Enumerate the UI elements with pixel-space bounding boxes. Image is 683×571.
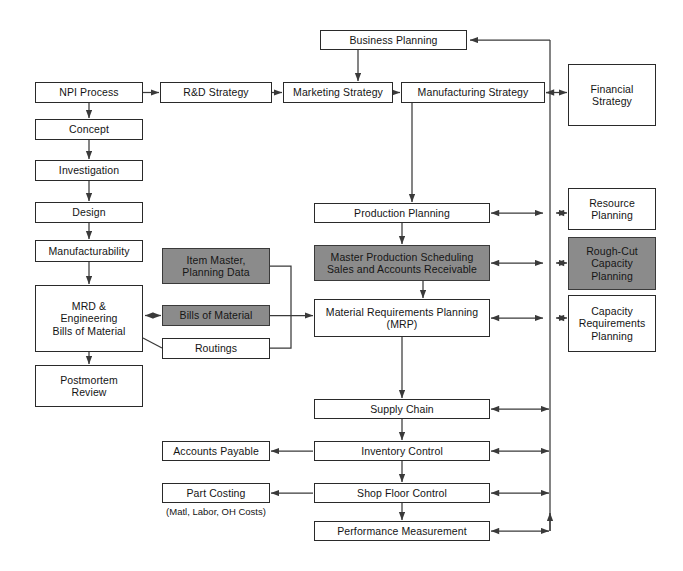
node-label: Supply Chain — [317, 403, 487, 416]
node-manufacturability[interactable]: Manufacturability — [35, 240, 143, 262]
node-label: NPI Process — [38, 86, 140, 99]
node-resource-planning[interactable]: Resource Planning — [568, 188, 656, 230]
node-label: Bills of Material — [165, 309, 267, 322]
node-business-planning[interactable]: Business Planning — [320, 30, 467, 50]
node-inventory-control[interactable]: Inventory Control — [314, 441, 490, 461]
node-label: Financial Strategy — [571, 83, 653, 108]
node-concept[interactable]: Concept — [35, 119, 143, 140]
node-label: Manufacturability — [38, 245, 140, 258]
node-label: Routings — [165, 342, 267, 355]
part-costing-note: (Matl, Labor, OH Costs) — [162, 506, 270, 517]
node-supply-chain[interactable]: Supply Chain — [314, 399, 490, 419]
connector-item-master-merge — [270, 266, 291, 316]
node-marketing-strategy[interactable]: Marketing Strategy — [283, 82, 393, 103]
node-rough-cut-capacity-planning[interactable]: Rough-Cut Capacity Planning — [568, 237, 656, 290]
node-label: Inventory Control — [317, 445, 487, 458]
node-bills-of-material[interactable]: Bills of Material — [162, 305, 270, 326]
node-mrd-engineering-bills-of-material[interactable]: MRD & Engineering Bills of Material — [35, 285, 143, 352]
node-label: Item Master, Planning Data — [165, 254, 267, 279]
node-label: R&D Strategy — [163, 86, 269, 99]
node-label: Master Production Scheduling Sales and A… — [317, 251, 487, 276]
node-investigation[interactable]: Investigation — [35, 160, 143, 181]
node-label: Performance Measurement — [317, 525, 487, 538]
node-master-production-scheduling[interactable]: Master Production Scheduling Sales and A… — [314, 245, 490, 281]
node-label: Marketing Strategy — [286, 86, 390, 99]
node-routings[interactable]: Routings — [162, 338, 270, 359]
node-label: Rough-Cut Capacity Planning — [571, 245, 653, 283]
node-item-master-planning-data[interactable]: Item Master, Planning Data — [162, 248, 270, 284]
node-financial-strategy[interactable]: Financial Strategy — [568, 64, 656, 126]
node-label: Part Costing — [165, 487, 267, 500]
node-label: Material Requirements Planning (MRP) — [317, 306, 487, 331]
node-label: Capacity Requirements Planning — [571, 305, 653, 343]
node-label: Design — [38, 206, 140, 219]
node-label: Shop Floor Control — [317, 487, 487, 500]
node-label: Production Planning — [317, 207, 487, 220]
node-label: Concept — [38, 123, 140, 136]
connector-routings-merge — [270, 316, 291, 349]
connector-mrd-to-routings — [143, 338, 162, 348]
node-label: Postmortem Review — [38, 374, 140, 399]
node-label: MRD & Engineering Bills of Material — [38, 300, 140, 338]
node-npi-process[interactable]: NPI Process — [35, 82, 143, 103]
node-label: Accounts Payable — [165, 445, 267, 458]
node-accounts-payable[interactable]: Accounts Payable — [162, 441, 270, 461]
node-label: Manufacturing Strategy — [404, 86, 542, 99]
node-shop-floor-control[interactable]: Shop Floor Control — [314, 483, 490, 503]
node-capacity-requirements-planning[interactable]: Capacity Requirements Planning — [568, 295, 656, 352]
node-postmortem-review[interactable]: Postmortem Review — [35, 365, 143, 407]
node-material-requirements-planning[interactable]: Material Requirements Planning (MRP) — [314, 299, 490, 337]
node-design[interactable]: Design — [35, 202, 143, 223]
node-rd-strategy[interactable]: R&D Strategy — [160, 82, 272, 103]
flowchart-canvas: NPI Process Concept Investigation Design… — [0, 0, 683, 571]
node-label: Business Planning — [323, 34, 464, 47]
node-part-costing[interactable]: Part Costing — [162, 483, 270, 503]
node-manufacturing-strategy[interactable]: Manufacturing Strategy — [401, 82, 545, 103]
node-performance-measurement[interactable]: Performance Measurement — [314, 521, 490, 541]
node-label: Resource Planning — [571, 197, 653, 222]
part-costing-note-label: (Matl, Labor, OH Costs) — [166, 506, 266, 517]
node-label: Investigation — [38, 164, 140, 177]
node-production-planning[interactable]: Production Planning — [314, 203, 490, 223]
